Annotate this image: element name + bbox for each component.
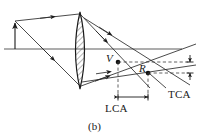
tca-leader-line (150, 74, 166, 88)
incident-ray-lower (15, 21, 80, 86)
tca-label: TCA (168, 89, 191, 100)
lca-dimension-arrow (118, 94, 148, 101)
violet-focus-label: V (106, 53, 113, 64)
incident-ray-upper (15, 14, 79, 21)
biconvex-lens (76, 12, 85, 89)
red-focus-label: R (139, 63, 146, 74)
lca-label: LCA (105, 103, 128, 114)
refracted-rays-upper (81, 15, 190, 88)
chromatic-aberration-figure: V R LCA TCA (b) (0, 0, 205, 140)
ray-diagram-canvas (0, 0, 205, 140)
figure-caption: (b) (88, 121, 101, 132)
tca-dimension-arrow (187, 55, 194, 80)
